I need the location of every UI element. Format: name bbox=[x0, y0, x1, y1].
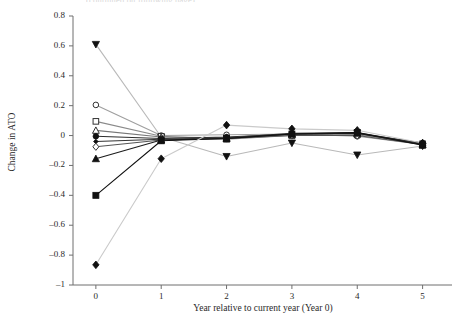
data-point-circle-filled bbox=[93, 134, 99, 140]
series-group-series-3 bbox=[96, 121, 423, 143]
series-group-series-10 bbox=[96, 125, 423, 265]
y-axis-tick-label: –0.6 bbox=[31, 219, 65, 229]
series-line-series-2 bbox=[96, 105, 423, 145]
x-axis-tick-label: 3 bbox=[282, 291, 302, 301]
x-axis-tick-label: 4 bbox=[347, 291, 367, 301]
data-point-circle-open bbox=[93, 102, 99, 108]
line-chart-plot-area bbox=[0, 0, 468, 323]
y-axis-tick-label: –1 bbox=[31, 279, 65, 289]
data-point-triangle-down-filled bbox=[354, 152, 361, 159]
data-point-square-filled bbox=[93, 192, 99, 198]
x-axis-tick-label: 2 bbox=[217, 291, 237, 301]
x-axis-tick-label: 1 bbox=[151, 291, 171, 301]
chart-figure: (continued on following page) Change in … bbox=[0, 0, 468, 323]
y-axis-label: Change in ATO bbox=[7, 87, 17, 197]
data-point-square-filled bbox=[158, 138, 164, 144]
y-axis-tick-label: 0.8 bbox=[31, 10, 65, 20]
series-line-series-3 bbox=[96, 121, 423, 143]
x-axis-label: Year relative to current year (Year 0) bbox=[73, 303, 453, 313]
series-group-series-2 bbox=[96, 105, 423, 145]
data-point-triangle-down-filled bbox=[92, 41, 99, 48]
y-axis-tick-label: 0.6 bbox=[31, 40, 65, 50]
data-point-triangle-down-filled bbox=[223, 153, 230, 160]
y-axis-tick-label: –0.8 bbox=[31, 249, 65, 259]
x-axis-tick-label: 5 bbox=[413, 291, 433, 301]
y-axis-tick-label: 0 bbox=[31, 130, 65, 140]
data-point-square-filled bbox=[224, 136, 230, 142]
y-axis-tick-label: 0.2 bbox=[31, 100, 65, 110]
data-point-diamond-filled bbox=[223, 121, 229, 129]
series-markers-series-10 bbox=[93, 121, 426, 268]
cut-off-header-text: (continued on following page) bbox=[86, 0, 406, 2]
data-point-diamond-open bbox=[93, 143, 99, 150]
y-axis-tick-label: –0.4 bbox=[31, 189, 65, 199]
y-axis-tick-label: –0.2 bbox=[31, 159, 65, 169]
data-point-square-open bbox=[93, 119, 99, 125]
series-markers-series-2 bbox=[93, 102, 425, 147]
x-axis-tick-label: 0 bbox=[86, 291, 106, 301]
series-line-series-10 bbox=[96, 125, 423, 265]
y-axis-tick-label: 0.4 bbox=[31, 70, 65, 80]
